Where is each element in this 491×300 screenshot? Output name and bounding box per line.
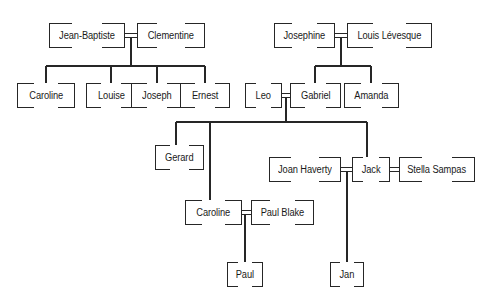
person-name-label: Paul Blake — [258, 208, 307, 218]
person-name-label: Joan Haverty — [275, 165, 334, 175]
person-name-label: Caroline — [26, 91, 65, 101]
family-tree-diagram: Jean-BaptisteClementineJosephineLouis Lé… — [0, 0, 491, 300]
person-name-label: Paul — [233, 270, 257, 280]
person-node-paul_blake[interactable]: Paul Blake — [251, 200, 314, 225]
person-node-jan[interactable]: Jan — [330, 262, 364, 287]
person-name-label: Jan — [337, 270, 357, 280]
person-node-caroline2[interactable]: Caroline — [185, 200, 242, 225]
person-node-josephine[interactable]: Josephine — [274, 23, 335, 48]
person-node-louise[interactable]: Louise — [86, 83, 136, 108]
person-node-paul[interactable]: Paul — [227, 262, 263, 287]
person-node-joseph[interactable]: Joseph — [131, 83, 183, 108]
person-node-joan_haverty[interactable]: Joan Haverty — [269, 157, 341, 182]
person-name-label: Jean-Baptiste — [56, 31, 117, 41]
person-node-jack[interactable]: Jack — [352, 157, 390, 182]
person-name-label: Caroline — [194, 208, 233, 218]
person-name-label: Gabriel — [298, 91, 333, 101]
person-name-label: Leo — [253, 91, 274, 101]
person-name-label: Louise — [95, 91, 127, 101]
person-name-label: Josephine — [281, 31, 328, 41]
person-node-stella[interactable]: Stella Sampas — [399, 157, 475, 182]
person-name-label: Clementine — [145, 31, 197, 41]
person-node-caroline1[interactable]: Caroline — [17, 83, 75, 108]
person-name-label: Ernest — [189, 91, 221, 101]
person-name-label: Stella Sampas — [405, 165, 469, 175]
person-node-clementine[interactable]: Clementine — [137, 23, 205, 48]
person-name-label: Louis Lévesque — [355, 31, 424, 41]
person-node-ernest[interactable]: Ernest — [180, 83, 230, 108]
person-name-label: Joseph — [139, 91, 174, 101]
person-node-louis[interactable]: Louis Lévesque — [347, 23, 432, 48]
person-node-leo[interactable]: Leo — [245, 83, 282, 108]
person-name-label: Amanda — [352, 91, 392, 101]
person-node-gabriel[interactable]: Gabriel — [290, 83, 341, 108]
person-name-label: Jack — [359, 165, 383, 175]
person-node-amanda[interactable]: Amanda — [344, 83, 399, 108]
person-name-label: Gerard — [163, 153, 197, 163]
person-node-jean_baptiste[interactable]: Jean-Baptiste — [49, 23, 125, 48]
person-node-gerard[interactable]: Gerard — [155, 145, 204, 170]
